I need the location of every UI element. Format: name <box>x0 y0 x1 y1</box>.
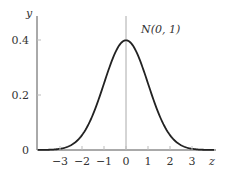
x-tick-label: −3 <box>52 155 68 168</box>
x-tick-label: 1 <box>145 155 152 168</box>
x-tick-label: −1 <box>96 155 112 168</box>
x-tick-label: 3 <box>189 155 196 168</box>
y-tick-label: 0 <box>22 144 29 157</box>
y-axis-label: y <box>25 7 33 20</box>
x-axis-ticks: −3−2−10123 <box>52 146 196 168</box>
x-axis-label: z <box>208 155 215 168</box>
normal-distribution-chart: −3−2−10123 00.20.4 y z N(0, 1) <box>0 0 229 178</box>
x-tick-label: 2 <box>167 155 174 168</box>
distribution-annotation: N(0, 1) <box>140 23 180 36</box>
x-tick-label: 0 <box>123 155 130 168</box>
y-tick-label: 0.2 <box>12 89 30 102</box>
x-tick-label: −2 <box>74 155 90 168</box>
y-tick-label: 0.4 <box>12 34 30 47</box>
